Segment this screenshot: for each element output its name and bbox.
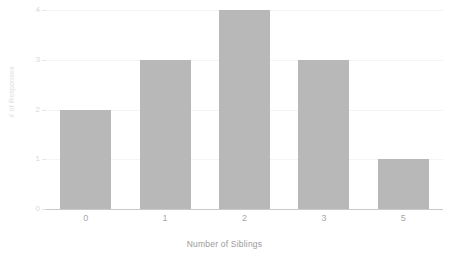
x-tick-label: 2 (242, 214, 247, 223)
x-tick-label: 1 (163, 214, 168, 223)
bar[interactable] (60, 110, 111, 210)
x-axis-title: Number of Siblings (0, 239, 449, 249)
bar[interactable] (140, 60, 191, 209)
bar[interactable] (298, 60, 349, 209)
y-tick-label: 4 (36, 6, 40, 14)
y-tick-mark (42, 159, 46, 160)
y-tick-label: 0 (36, 205, 40, 213)
bar-chart: # of Responses 01234 01235 Number of Sib… (0, 0, 449, 259)
plot-area: 01234 (46, 10, 443, 209)
y-tick-label: 2 (36, 106, 40, 114)
bar[interactable] (219, 10, 270, 209)
y-axis-title: # of Responses (5, 42, 19, 142)
x-tick-label: 5 (401, 214, 406, 223)
bar[interactable] (378, 159, 429, 209)
x-axis-line (46, 209, 443, 210)
x-tick-label: 0 (83, 214, 88, 223)
y-tick-mark (42, 60, 46, 61)
y-tick-label: 1 (36, 155, 40, 163)
y-tick-label: 3 (36, 56, 40, 64)
y-tick-mark (42, 10, 46, 11)
y-tick-mark (42, 110, 46, 111)
x-tick-label: 3 (321, 214, 326, 223)
